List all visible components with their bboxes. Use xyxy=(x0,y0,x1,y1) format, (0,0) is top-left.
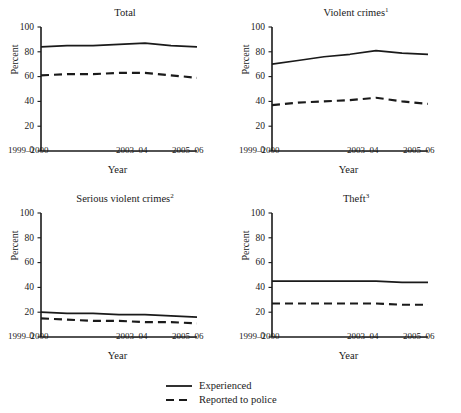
y-tick-label: 60 xyxy=(12,72,34,82)
y-tick-label: 20 xyxy=(12,308,34,318)
y-tick-label: 80 xyxy=(12,48,34,58)
y-tick-label: 60 xyxy=(243,72,265,82)
y-tick-label: 80 xyxy=(243,234,265,244)
x-tick-label: 2005–06 xyxy=(172,332,204,341)
y-tick-label: 40 xyxy=(243,97,265,107)
y-axis-label-theft: Percent xyxy=(240,211,251,281)
x-tick-label: 1999–2000 xyxy=(8,146,49,155)
x-axis-label-violent-crimes: Year xyxy=(266,164,431,175)
x-axis-label-total: Year xyxy=(35,164,200,175)
y-tick-label: 100 xyxy=(243,23,265,33)
series-line-reported-to-police xyxy=(41,318,197,323)
multi-panel-line-chart-figure: Total Percent Year 100 80 60 40 20 0 199… xyxy=(0,0,461,413)
series-line-reported-to-police xyxy=(272,98,428,105)
panel-total: Total Percent Year 100 80 60 40 20 0 199… xyxy=(0,6,230,191)
y-tick-label: 100 xyxy=(12,209,34,219)
legend-label-experienced: Experienced xyxy=(199,380,251,391)
legend-line-dashed-icon xyxy=(166,395,192,405)
y-axis-label-violent-crimes: Percent xyxy=(240,25,251,95)
x-tick-label: 2003–04 xyxy=(347,332,379,341)
legend-item-experienced: Experienced xyxy=(166,378,251,393)
x-tick-label: 2005–06 xyxy=(403,146,435,155)
series-line-experienced xyxy=(41,43,197,47)
x-axis-label-theft: Year xyxy=(266,350,431,361)
x-tick-label: 2003–04 xyxy=(347,146,379,155)
x-tick-label: 1999–2000 xyxy=(8,332,49,341)
y-tick-label: 20 xyxy=(12,122,34,132)
y-tick-label: 20 xyxy=(243,308,265,318)
x-tick-label: 1999–2000 xyxy=(239,146,280,155)
y-tick-label: 80 xyxy=(12,234,34,244)
panel-violent-crimes: Violent crimes1 Percent Year 100 80 60 4… xyxy=(231,6,461,191)
y-axis-label-serious-violent-crimes: Percent xyxy=(9,211,20,281)
y-tick-label: 40 xyxy=(243,283,265,293)
panel-serious-violent-crimes: Serious violent crimes2 Percent Year 100… xyxy=(0,192,230,377)
y-tick-label: 100 xyxy=(243,209,265,219)
series-line-experienced xyxy=(41,312,197,317)
panel-theft: Theft3 Percent Year 100 80 60 40 20 0 19… xyxy=(231,192,461,377)
y-tick-label: 60 xyxy=(12,258,34,268)
series-line-reported-to-police xyxy=(41,73,197,78)
x-tick-label: 2003–04 xyxy=(116,146,148,155)
x-axis-label-serious-violent-crimes: Year xyxy=(35,350,200,361)
legend-item-reported-to-police: Reported to police xyxy=(166,392,277,407)
chart-legend: Experienced Reported to police xyxy=(0,378,461,412)
legend-label-reported-to-police: Reported to police xyxy=(199,394,277,405)
x-tick-label: 2005–06 xyxy=(172,146,204,155)
series-line-experienced xyxy=(272,281,428,282)
series-line-experienced xyxy=(272,51,428,65)
y-tick-label: 100 xyxy=(12,23,34,33)
legend-line-solid-icon xyxy=(166,381,192,391)
series-line-reported-to-police xyxy=(272,304,428,305)
y-tick-label: 40 xyxy=(12,283,34,293)
y-tick-label: 40 xyxy=(12,97,34,107)
y-tick-label: 20 xyxy=(243,122,265,132)
x-tick-label: 2003–04 xyxy=(116,332,148,341)
x-tick-label: 1999–2000 xyxy=(239,332,280,341)
x-tick-label: 2005–06 xyxy=(403,332,435,341)
y-tick-label: 80 xyxy=(243,48,265,58)
y-axis-label-total: Percent xyxy=(9,25,20,95)
y-tick-label: 60 xyxy=(243,258,265,268)
